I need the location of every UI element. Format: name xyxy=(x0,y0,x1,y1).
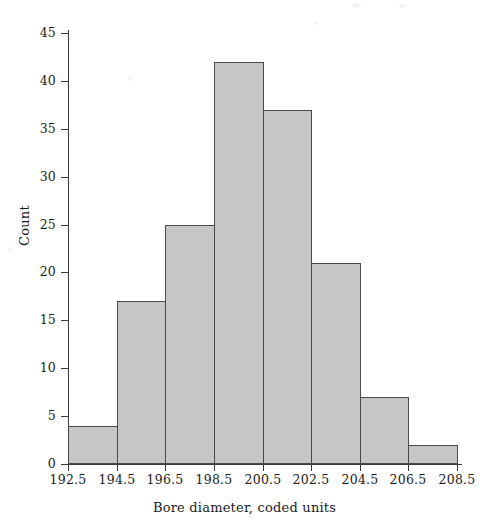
x-axis-tick xyxy=(408,464,409,471)
y-axis-tick xyxy=(61,320,68,321)
histogram-bar xyxy=(360,397,409,464)
y-axis-tick-label: 45 xyxy=(24,27,56,40)
histogram-figure: 051015202530354045 192.5194.5196.5198.52… xyxy=(0,0,489,520)
y-axis-tick xyxy=(61,81,68,82)
histogram-bar xyxy=(117,301,166,464)
x-axis-tick xyxy=(360,464,361,471)
histogram-bar xyxy=(408,445,458,464)
scan-speckle xyxy=(352,3,361,8)
y-axis-tick-label: 10 xyxy=(24,362,56,375)
y-axis-tick-label: 15 xyxy=(24,314,56,327)
histogram-bar xyxy=(214,62,264,464)
y-axis-tick-label: 30 xyxy=(24,171,56,184)
y-axis-tick-label: 40 xyxy=(24,75,56,88)
scan-speckle xyxy=(128,77,133,81)
y-axis-line xyxy=(68,30,69,466)
y-axis-tick-label: 5 xyxy=(24,410,56,423)
y-axis-tick xyxy=(61,177,68,178)
y-axis-tick xyxy=(61,416,68,417)
y-axis-tick-label: 0 xyxy=(24,458,56,471)
x-axis-tick xyxy=(117,464,118,471)
x-axis-tick-label: 208.5 xyxy=(427,474,487,487)
y-axis-tick xyxy=(61,464,68,465)
x-axis-tick xyxy=(263,464,264,471)
x-axis-tick xyxy=(214,464,215,471)
histogram-bar xyxy=(68,426,118,464)
scan-speckle xyxy=(314,22,319,25)
x-axis-tick xyxy=(457,464,458,471)
y-axis-tick xyxy=(61,225,68,226)
histogram-bar xyxy=(165,225,215,464)
scan-speckle xyxy=(399,4,406,8)
y-axis-tick xyxy=(61,129,68,130)
x-axis-title: Bore diameter, coded units xyxy=(0,500,489,515)
scan-speckle xyxy=(8,247,13,251)
x-axis-tick xyxy=(68,464,69,471)
y-axis-title: Count xyxy=(17,196,32,256)
x-axis-tick xyxy=(165,464,166,471)
histogram-bar xyxy=(311,263,361,464)
y-axis-tick xyxy=(61,368,68,369)
x-axis-line xyxy=(62,464,462,465)
y-axis-tick-label: 35 xyxy=(24,123,56,136)
histogram-bar xyxy=(263,110,312,464)
y-axis-tick xyxy=(61,33,68,34)
y-axis-tick xyxy=(61,272,68,273)
x-axis-tick xyxy=(311,464,312,471)
y-axis-tick-label: 20 xyxy=(24,266,56,279)
